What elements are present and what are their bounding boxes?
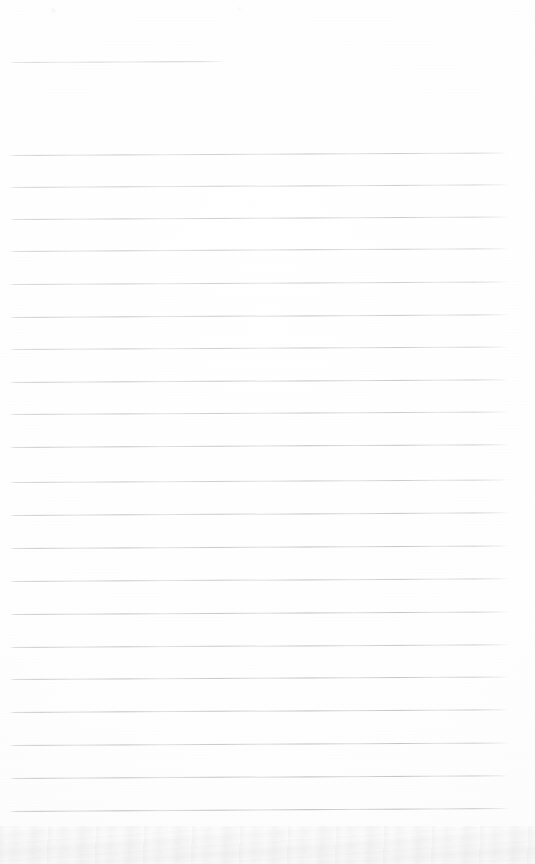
ruled-line-ink xyxy=(9,152,507,156)
ruled-line-short xyxy=(10,61,225,63)
ruled-line xyxy=(9,152,507,156)
ruled-line-ink xyxy=(9,578,508,582)
ruled-line-ink xyxy=(9,314,508,318)
bottom-scan-shadow xyxy=(0,826,535,864)
scan-speck xyxy=(52,9,55,12)
ruled-line-ink xyxy=(9,808,508,812)
ruled-line xyxy=(9,578,508,582)
ruled-line xyxy=(9,676,508,680)
ruled-line xyxy=(9,742,508,746)
ruled-line xyxy=(9,709,508,713)
ruled-line xyxy=(9,411,508,415)
ruled-line xyxy=(9,512,508,516)
ruled-line-ink xyxy=(9,644,508,648)
scanned-page xyxy=(0,0,535,864)
ruled-line-ink xyxy=(9,479,508,483)
ruled-line xyxy=(9,545,508,549)
ruled-line xyxy=(9,314,508,318)
ruled-line xyxy=(9,346,508,350)
ruled-line xyxy=(9,808,508,812)
ruled-line-ink xyxy=(9,545,508,549)
paper-grain-texture xyxy=(0,0,535,864)
ruled-line-ink xyxy=(9,346,508,350)
ruled-line-ink xyxy=(9,379,508,383)
ruled-line-ink xyxy=(9,512,508,516)
ruled-line-ink xyxy=(9,216,508,220)
ruled-line xyxy=(9,184,508,188)
ruled-line xyxy=(9,379,508,383)
ruled-line-ink xyxy=(9,775,508,779)
ruled-line xyxy=(9,216,508,220)
bottom-scan-mottle xyxy=(0,826,535,864)
ruled-line-ink xyxy=(9,248,508,252)
ruled-line xyxy=(9,444,508,448)
scan-speck xyxy=(238,8,240,10)
paper-background xyxy=(0,0,535,864)
ruled-line-ink xyxy=(9,742,508,746)
ruled-line-ink xyxy=(9,184,508,188)
ruled-line-ink xyxy=(9,611,508,615)
ruled-line-ink xyxy=(9,281,508,285)
ruled-line-ink xyxy=(10,61,225,63)
ruled-line xyxy=(9,479,508,483)
ruled-line xyxy=(9,611,508,615)
ruled-line xyxy=(9,775,508,779)
ruled-line-ink xyxy=(9,676,508,680)
ruled-line xyxy=(9,644,508,648)
ruled-line-ink xyxy=(9,411,508,415)
ruled-line xyxy=(9,281,508,285)
ruled-line xyxy=(9,248,508,252)
ruled-line-ink xyxy=(9,709,508,713)
ruled-line-ink xyxy=(9,444,508,448)
